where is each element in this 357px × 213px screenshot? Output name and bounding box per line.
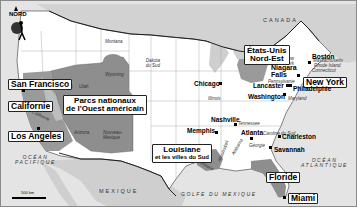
region-nordest[interactable]: États-Unis Nord-Est [244, 45, 290, 65]
dot-memphis [215, 131, 218, 134]
map-frame: NORD CANADA MEXIQUE OCÉAN PACIFIQUE OCÉA… [0, 0, 357, 207]
sea-atlantique: OCÉAN ATLANTIQUE [301, 158, 348, 168]
city-niagara[interactable]: Niagara Falls [271, 64, 297, 78]
dot-newyork [297, 74, 300, 77]
state-montana: Montana [105, 40, 123, 45]
city-lancaster[interactable]: Lancaster [253, 83, 284, 90]
city-losangeles[interactable]: Los Angeles [8, 131, 64, 142]
city-savannah[interactable]: Savannah [274, 147, 305, 154]
city-philadelphia[interactable]: Philadelphie [293, 86, 331, 93]
dot-boston [308, 61, 311, 64]
region-californie[interactable]: Californie [8, 101, 53, 112]
state-wyoming: Wyoming [105, 73, 124, 78]
dot-losangeles [37, 127, 40, 130]
dot-savannah [269, 146, 272, 149]
city-chicago[interactable]: Chicago [194, 81, 220, 88]
scale-label: 500 km [21, 191, 34, 195]
north-arrow-hiker-icon [8, 6, 30, 44]
region-parcs[interactable]: Parcs nationaux de l'Ouest américain [63, 95, 147, 115]
state-utah: Utah [79, 85, 89, 90]
state-arizona: Arizona [74, 131, 89, 136]
city-memphis[interactable]: Memphis [187, 128, 215, 135]
city-boston[interactable]: Boston [312, 54, 334, 61]
dot-philadelphia [289, 84, 292, 87]
state-connecticut: Connecticut [312, 69, 336, 74]
city-miami[interactable]: Miami [288, 193, 318, 204]
country-canada: CANADA [263, 18, 298, 24]
compass-north: NORD [8, 6, 30, 44]
sea-golfe: GOLFE DU MEXIQUE [181, 192, 257, 197]
region-louisiane[interactable]: Louisiane et les villes du Sud [152, 144, 212, 163]
state-dakota: Dakota du Sud [143, 59, 163, 68]
city-atlanta[interactable]: Atlanta [241, 130, 263, 137]
city-charleston[interactable]: Charleston [282, 134, 316, 141]
state-illinois: Illinois [208, 97, 221, 102]
dakota-highlight [103, 54, 123, 68]
city-nashville[interactable]: Nashville [211, 117, 240, 124]
state-tennessee: Tennessee [238, 122, 260, 127]
country-mexique: MEXIQUE [99, 189, 138, 195]
state-georgie: Géorgie [249, 144, 265, 149]
usa-map [1, 1, 357, 207]
city-sanfrancisco[interactable]: San Francisco [8, 79, 72, 90]
sea-pacifique: OCÉAN PACIFIQUE [15, 155, 56, 165]
dot-charleston [278, 135, 281, 138]
city-washington[interactable]: Washington [248, 94, 285, 101]
dot-atlanta [250, 137, 253, 140]
dot-miami [283, 196, 286, 199]
dot-sanfrancisco [22, 89, 25, 92]
region-floride[interactable]: Floride [266, 172, 300, 183]
state-maryland: Maryland [288, 97, 307, 102]
scale-bar [12, 197, 46, 199]
state-nmexico: Nouveau-Mexique [103, 131, 121, 140]
